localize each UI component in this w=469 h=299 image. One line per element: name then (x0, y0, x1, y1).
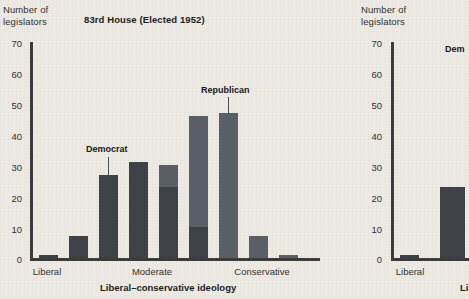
y-tick-50-left: 50 (0, 100, 22, 111)
bar-2-segment-democrat (69, 236, 88, 258)
bar-1-segment-democrat (39, 255, 58, 258)
x-tick-conservative-left: Conservative (222, 266, 302, 277)
bar-9-left[interactable] (279, 255, 298, 258)
x-tick-liberal-right: Liberal (380, 266, 440, 277)
y-tick-60-left: 60 (0, 69, 22, 80)
series-label-democrat-right: Dem (445, 44, 465, 54)
y-tick-40-right: 40 (360, 131, 382, 142)
bar-7-left[interactable] (219, 113, 238, 258)
y-tick-50-right: 50 (360, 100, 382, 111)
x-axis-line-left (30, 258, 320, 261)
bar-5-left[interactable] (159, 165, 178, 258)
bar-6-left[interactable] (189, 116, 208, 258)
y-tick-70-left: 70 (0, 38, 22, 49)
bar-1-right[interactable] (400, 255, 419, 258)
bar-2-right-segment-democrat (440, 187, 465, 258)
bar-4-segment-democrat (129, 162, 148, 258)
chart-panel-left: Number of legislators 83rd House (Electe… (0, 0, 340, 299)
x-axis-label-left: Liberal–conservative ideology (100, 282, 236, 293)
bar-5-segment-republican (159, 165, 178, 187)
y-tick-30-left: 30 (0, 162, 22, 173)
bar-4-left[interactable] (129, 162, 148, 258)
y-tick-20-left: 20 (0, 193, 22, 204)
y-tick-30-right: 30 (360, 162, 382, 173)
bar-2-left[interactable] (69, 236, 88, 258)
y-tick-0-right: 0 (360, 254, 382, 265)
bar-6-segment-democrat (189, 227, 208, 258)
x-axis-line-right (391, 258, 469, 261)
chart-title-left: 83rd House (Elected 1952) (84, 14, 205, 25)
x-axis-label-right: Li (460, 282, 468, 293)
bar-3-left[interactable] (99, 175, 118, 258)
bar-8-segment-republican (249, 236, 268, 258)
series-label-republican-left: Republican (201, 85, 250, 95)
y-tick-40-left: 40 (0, 131, 22, 142)
chart-panel-right: Number of legislators 70 60 50 40 30 20 … (340, 0, 469, 299)
republican-leader-line (228, 97, 229, 114)
bar-8-left[interactable] (249, 236, 268, 258)
bar-3-segment-democrat (99, 175, 118, 258)
y-tick-0-left: 0 (0, 254, 22, 265)
y-axis-title-right: Number of legislators (361, 4, 406, 27)
x-tick-liberal-left: Liberal (17, 266, 77, 277)
bar-7-segment-republican (219, 113, 238, 258)
bar-2-right[interactable] (440, 187, 465, 258)
democrat-leader-line (108, 157, 109, 175)
series-label-democrat-left: Democrat (86, 144, 128, 154)
bar-1-right-segment-democrat (400, 255, 419, 258)
y-tick-10-left: 10 (0, 224, 22, 235)
plot-area-right (394, 42, 469, 258)
plot-area-left (33, 42, 320, 258)
bar-9-segment-republican (279, 255, 298, 258)
x-tick-moderate-left: Moderate (122, 266, 182, 277)
bar-1-left[interactable] (39, 255, 58, 258)
y-tick-10-right: 10 (360, 224, 382, 235)
y-tick-60-right: 60 (360, 69, 382, 80)
y-tick-20-right: 20 (360, 193, 382, 204)
y-tick-70-right: 70 (360, 38, 382, 49)
bar-6-segment-republican (189, 116, 208, 227)
y-axis-title-left: Number of legislators (3, 4, 48, 27)
bar-5-segment-democrat (159, 187, 178, 258)
